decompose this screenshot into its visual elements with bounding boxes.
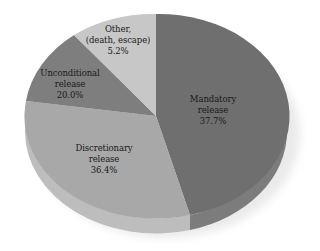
label-discretionary-value: 36.4%	[75, 165, 132, 176]
label-other: Other, (death, escape) 5.2%	[86, 24, 151, 57]
label-mandatory-name: Mandatory	[190, 94, 236, 105]
label-discretionary-detail: release	[75, 154, 132, 165]
label-discretionary-name: Discretionary	[75, 143, 132, 154]
label-other-detail: (death, escape)	[86, 35, 151, 46]
label-other-name: Other,	[86, 24, 151, 35]
label-other-value: 5.2%	[86, 46, 151, 57]
label-mandatory: Mandatory release 37.7%	[190, 94, 236, 127]
label-mandatory-detail: release	[190, 105, 236, 116]
pie-chart-graphic	[0, 0, 320, 251]
label-mandatory-value: 37.7%	[190, 116, 236, 127]
label-unconditional-value: 20.0%	[40, 90, 99, 101]
label-unconditional: Unconditional release 20.0%	[40, 68, 99, 101]
label-unconditional-name: Unconditional	[40, 68, 99, 79]
pie-chart: Other, (death, escape) 5.2% Unconditiona…	[0, 0, 320, 251]
label-unconditional-detail: release	[40, 79, 99, 90]
label-discretionary: Discretionary release 36.4%	[75, 143, 132, 176]
